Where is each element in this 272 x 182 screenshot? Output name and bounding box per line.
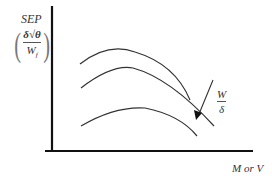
trend-arrow-shaft <box>199 80 213 114</box>
y-fraction-denominator: Wf <box>26 44 37 62</box>
arrow-label-denominator: δ <box>219 103 224 115</box>
y-fraction-subscript: f <box>36 51 38 59</box>
arrow-label-numerator: W <box>217 88 226 100</box>
y-axis-fraction: ( δ√θ Wf ) <box>12 28 52 62</box>
arrow-label-fraction: W δ <box>217 88 226 115</box>
fraction-bar <box>23 42 40 43</box>
right-paren: ) <box>43 28 50 62</box>
y-fraction-numerator: δ√θ <box>23 28 40 41</box>
middle-curve <box>81 67 214 126</box>
lower-curve <box>81 108 197 136</box>
y-axis-label-sep: SEP <box>21 13 42 25</box>
arrow-label-bar <box>217 101 226 102</box>
x-axis-label: M or V <box>232 163 263 174</box>
y-axis-fraction-body: δ√θ Wf <box>23 28 40 62</box>
upper-curve <box>80 49 190 100</box>
y-fraction-denominator-text: W <box>26 44 35 56</box>
left-paren: ( <box>14 28 21 62</box>
